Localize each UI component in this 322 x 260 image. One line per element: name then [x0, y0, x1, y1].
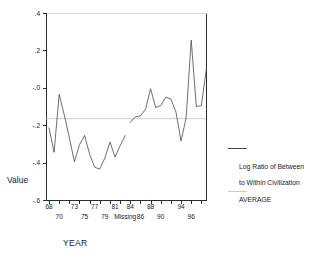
- y-axis-tick-label: -.4: [32, 159, 40, 166]
- x-axis-tick-label: Missing: [114, 213, 136, 221]
- legend-average-label: AVERAGE: [239, 196, 271, 204]
- legend-swatch-series-icon: [228, 148, 247, 149]
- y-axis-tick-label: .2: [35, 47, 40, 54]
- series-line-segment-2: [130, 40, 206, 141]
- x-axis-tick-label: 77: [91, 203, 98, 211]
- y-axis-tick-label: -.6: [32, 197, 40, 204]
- x-axis-title: YEAR: [63, 238, 87, 248]
- legend-swatch-average-icon: [228, 191, 247, 192]
- chart-canvas: .4.2-.0-.2-.4-.6 68737781848894707579Mis…: [0, 0, 322, 260]
- x-axis-tick: [201, 200, 202, 204]
- x-axis-tick-label: 70: [56, 213, 63, 221]
- x-axis-tick-label: 84: [127, 203, 134, 211]
- x-axis-tick: [100, 200, 101, 204]
- x-axis-tick-label: 73: [71, 203, 78, 211]
- x-axis-tick: [161, 200, 162, 204]
- x-axis-tick-label: 75: [81, 213, 88, 221]
- x-axis-tick: [191, 200, 192, 204]
- x-axis-tick: [171, 200, 172, 204]
- x-axis-tick-label: 68: [45, 203, 52, 211]
- legend-series-label-line1: Log Ratio of Between: [239, 163, 304, 171]
- y-axis-tick-label: .4: [35, 10, 40, 17]
- x-axis-tick-label: 86: [137, 213, 144, 221]
- x-axis-tick: [79, 200, 80, 204]
- y-axis-title: Value: [7, 175, 28, 185]
- y-axis-tick-label: -.0: [32, 84, 40, 91]
- x-axis-tick: [59, 200, 60, 204]
- series-line-segment-1: [49, 94, 125, 169]
- x-axis-tick-label: 81: [111, 203, 118, 211]
- data-series-plot: [46, 13, 206, 200]
- y-axis-tick-label: -.2: [32, 122, 40, 129]
- x-axis-tick-label: 79: [101, 213, 108, 221]
- x-axis-tick: [140, 200, 141, 204]
- x-axis-tick-label: 88: [147, 203, 154, 211]
- y-axis-tick: [43, 200, 47, 201]
- x-axis-tick-label: 90: [157, 213, 164, 221]
- x-axis-tick-label: 96: [188, 213, 195, 221]
- legend-series-label-line2: to Within Civilization: [239, 179, 300, 187]
- x-axis-tick: [120, 200, 121, 204]
- plot-right-border: [206, 13, 207, 201]
- x-axis-tick-label: 94: [177, 203, 184, 211]
